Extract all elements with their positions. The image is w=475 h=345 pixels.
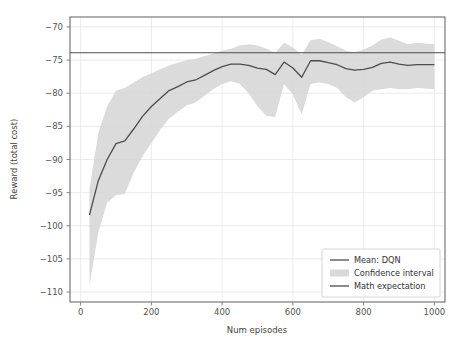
- x-tick-label: 200: [143, 307, 159, 317]
- y-tick-label: −75: [45, 55, 63, 65]
- y-axis-label: Reward (total cost): [9, 119, 19, 200]
- y-tick-label: −80: [45, 88, 63, 98]
- chart-canvas: 02004006008001000 −70−75−80−85−90−95−100…: [0, 0, 475, 345]
- y-tick-label: −110: [40, 287, 63, 297]
- chart-legend[interactable]: Mean: DQNConfidence intervalMath expecta…: [322, 249, 440, 297]
- legend-swatch-confidence-interval: [330, 270, 349, 277]
- x-tick-label: 0: [78, 307, 83, 317]
- legend-label: Confidence interval: [354, 268, 434, 278]
- y-tick-label: −100: [40, 221, 63, 231]
- x-tick-label: 600: [285, 307, 301, 317]
- legend-label: Math expectation: [354, 281, 425, 291]
- legend-label: Mean: DQN: [354, 255, 401, 265]
- x-tick-label: 800: [356, 307, 372, 317]
- y-tick-label: −70: [45, 22, 63, 32]
- y-tick-label: −90: [45, 155, 63, 165]
- chart-figure: 02004006008001000 −70−75−80−85−90−95−100…: [0, 0, 475, 345]
- y-tick-label: −105: [40, 254, 63, 264]
- y-tick-label: −85: [45, 121, 63, 131]
- x-axis-label: Num episodes: [227, 325, 288, 335]
- x-tick-label: 400: [214, 307, 230, 317]
- y-tick-label: −95: [45, 188, 63, 198]
- x-tick-label: 1000: [424, 307, 446, 317]
